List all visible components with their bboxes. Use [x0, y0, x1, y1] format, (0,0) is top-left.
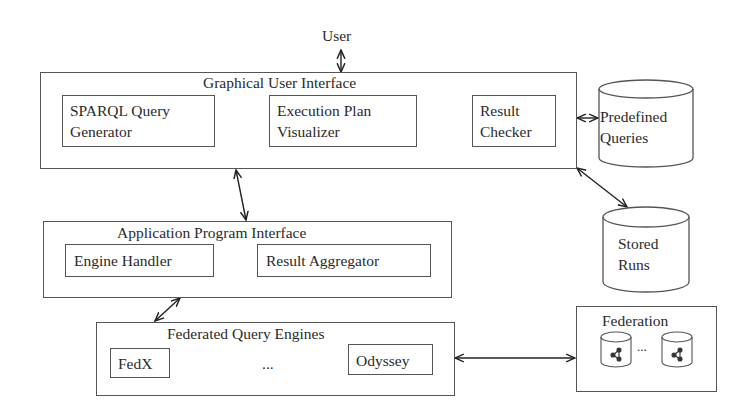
api-title: Application Program Interface	[117, 225, 306, 241]
federation-title: Federation	[602, 313, 668, 329]
label-line: SPARQL Query	[70, 100, 170, 121]
execution-plan-visualizer-box: Execution Plan Visualizer	[269, 95, 417, 147]
arrow-api-engines	[155, 298, 180, 321]
stored-runs-label: Stored Runs	[618, 233, 658, 275]
label-line: Checker	[480, 121, 532, 142]
gui-title: Graphical User Interface	[203, 75, 356, 91]
sparql-query-generator-label: SPARQL Query Generator	[70, 100, 170, 142]
federation-ellipsis: ...	[637, 340, 647, 353]
result-checker-label: Result Checker	[480, 100, 532, 142]
result-aggregator-label: Result Aggregator	[266, 250, 379, 271]
fedx-box: FedX	[110, 348, 170, 378]
fedx-label: FedX	[118, 353, 152, 374]
federation-box: Federation ...	[576, 306, 717, 392]
label-line: Execution Plan	[277, 100, 371, 121]
engines-ellipsis: ...	[262, 356, 274, 372]
label-line: Generator	[70, 121, 170, 142]
user-label: User	[322, 28, 351, 44]
sparql-query-generator-box: SPARQL Query Generator	[62, 95, 215, 147]
odyssey-label: Odyssey	[356, 350, 409, 371]
result-aggregator-box: Result Aggregator	[257, 244, 431, 277]
api-box: Application Program Interface Engine Han…	[43, 221, 452, 298]
arrow-gui-stored-runs	[577, 168, 627, 207]
engine-handler-label: Engine Handler	[74, 250, 172, 271]
execution-plan-visualizer-label: Execution Plan Visualizer	[277, 100, 371, 142]
arrow-gui-api	[236, 170, 246, 220]
odyssey-box: Odyssey	[348, 344, 433, 375]
label-line: Predefined	[600, 106, 667, 127]
label-line: Runs	[618, 254, 658, 275]
gui-box: Graphical User Interface SPARQL Query Ge…	[40, 72, 577, 169]
result-checker-box: Result Checker	[472, 95, 556, 147]
federated-query-engines-box: Federated Query Engines FedX ... Odyssey	[96, 322, 455, 396]
label-line: Visualizer	[277, 121, 371, 142]
label-line: Result	[480, 100, 532, 121]
label-line: Queries	[600, 127, 667, 148]
engine-handler-box: Engine Handler	[65, 244, 214, 277]
label-line: Stored	[618, 233, 658, 254]
predefined-queries-label: Predefined Queries	[600, 106, 667, 148]
engines-title: Federated Query Engines	[167, 326, 325, 342]
